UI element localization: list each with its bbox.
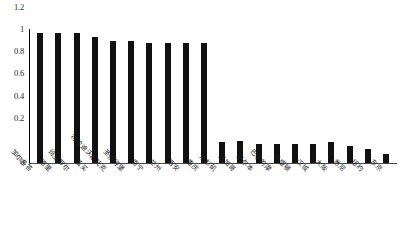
bar-slot bbox=[104, 7, 122, 163]
bar bbox=[110, 41, 116, 163]
bar-slot bbox=[304, 7, 322, 163]
bar bbox=[146, 43, 152, 163]
bar-slot bbox=[340, 7, 358, 163]
bar-slot bbox=[268, 7, 286, 163]
y-tick-label: 0.2 bbox=[0, 114, 24, 123]
bar-slot bbox=[122, 7, 140, 163]
bar-slot bbox=[249, 7, 267, 163]
bar-slot bbox=[195, 7, 213, 163]
y-tick-label: 0.8 bbox=[0, 47, 24, 56]
x-axis-tick-labels: 加尔各答德里班加罗尔孟买符拉迪沃斯托克圣彼得堡南宁兰州西安重庆洛杉矶芝加哥墨尔本… bbox=[29, 164, 397, 226]
bar-slot bbox=[158, 7, 176, 163]
bar-slot bbox=[286, 7, 304, 163]
bar-slot bbox=[359, 7, 377, 163]
figure-caption bbox=[0, 237, 401, 245]
bar-slot bbox=[140, 7, 158, 163]
bar-slot bbox=[49, 7, 67, 163]
bar bbox=[55, 33, 61, 163]
bar-slot bbox=[31, 7, 49, 163]
bar bbox=[183, 43, 189, 163]
bar bbox=[37, 33, 43, 163]
bar bbox=[201, 43, 207, 163]
y-tick-label: 0.4 bbox=[0, 92, 24, 101]
y-tick-label: 1 bbox=[0, 25, 24, 34]
bar-chart: 1.2 1 0.8 0.6 0.4 0.2 0 加尔各答德里班加罗尔孟买符拉迪沃… bbox=[0, 0, 401, 245]
bar bbox=[128, 41, 134, 163]
y-axis-tick-labels: 1.2 1 0.8 0.6 0.4 0.2 0 bbox=[0, 0, 30, 245]
bar-slot bbox=[213, 7, 231, 163]
bar bbox=[165, 43, 171, 163]
bar-slot bbox=[377, 7, 395, 163]
bar-slot bbox=[86, 7, 104, 163]
y-tick-label: 1.2 bbox=[0, 3, 24, 12]
y-tick-label: 0.6 bbox=[0, 69, 24, 78]
bar bbox=[92, 37, 98, 163]
bar-slot bbox=[177, 7, 195, 163]
bar-slot bbox=[322, 7, 340, 163]
bar-slot bbox=[231, 7, 249, 163]
bar bbox=[383, 154, 389, 163]
